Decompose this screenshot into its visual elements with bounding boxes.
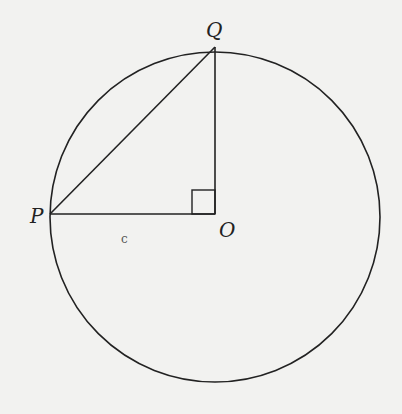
stray-mark: c	[121, 232, 128, 246]
right-angle-marker	[192, 190, 215, 214]
geometry-diagram: Q P O c	[0, 0, 402, 414]
label-q: Q	[206, 18, 222, 42]
label-o: O	[219, 218, 235, 242]
label-p: P	[29, 204, 44, 228]
